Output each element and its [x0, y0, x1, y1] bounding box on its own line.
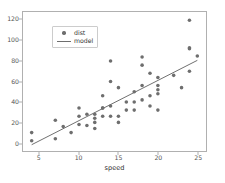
model-line: [32, 60, 198, 144]
scatter-point: [140, 63, 144, 67]
scatter-point: [30, 131, 34, 135]
scatter-point: [132, 108, 136, 112]
scatter-point: [77, 123, 81, 127]
scatter-point: [140, 98, 144, 102]
scatter-point: [140, 55, 144, 59]
scatter-point: [140, 84, 144, 88]
scatter-point: [30, 139, 34, 143]
scatter-point: [148, 72, 152, 76]
legend-label-dist: dist: [74, 30, 85, 36]
scatter-point: [109, 104, 113, 108]
scatter-point: [172, 74, 176, 78]
x-axis-tick-label: 15: [115, 155, 123, 161]
scatter-point: [109, 80, 113, 84]
scatter-point: [156, 76, 160, 80]
scatter-point: [180, 86, 184, 90]
y-axis-tick-label: 100: [7, 37, 19, 43]
scatter-point: [148, 104, 152, 108]
scatter-point: [61, 125, 65, 129]
scatter-point: [54, 137, 58, 141]
x-axis-tick-label: 5: [37, 155, 41, 161]
scatter-point: [85, 112, 89, 116]
x-axis-label: speed: [22, 165, 207, 172]
legend: dist model: [52, 26, 98, 48]
scatter-point: [85, 124, 89, 128]
scatter-point: [77, 114, 81, 118]
scatter-point: [101, 94, 105, 98]
scatter-point: [188, 70, 192, 74]
scatter-point: [101, 114, 105, 118]
scatter-point: [69, 131, 73, 135]
y-axis-tick-label: 80: [11, 58, 19, 64]
scatter-point: [156, 88, 160, 92]
scatter-point: [132, 90, 136, 94]
scatter-point: [93, 121, 97, 125]
legend-entry-model: model: [56, 37, 93, 45]
plot-canvas: [23, 12, 206, 151]
scatter-point: [125, 108, 129, 112]
y-axis-tick-labels: 020406080100120: [0, 11, 19, 152]
x-axis-tick-label: 25: [194, 155, 202, 161]
legend-label-model: model: [74, 38, 93, 44]
scatter-point: [93, 112, 97, 116]
x-axis-tick-label: 10: [75, 155, 83, 161]
y-axis-tick-label: 20: [11, 120, 19, 126]
scatter-point: [109, 114, 113, 118]
scatter-point: [188, 46, 192, 50]
plot-axes: dist model: [22, 11, 207, 152]
figure: 020406080100120 dist model 510152025: [0, 0, 225, 183]
scatter-point: [109, 59, 113, 63]
scatter-point: [101, 106, 105, 110]
scatter-point: [148, 94, 152, 98]
x-axis-tick-label: 20: [154, 155, 162, 161]
y-axis-tick-label: 60: [11, 78, 19, 84]
scatter-point: [93, 117, 97, 121]
scatter-point: [156, 84, 160, 88]
legend-line-segment-icon: [56, 37, 72, 45]
x-axis-tick-labels: 510152025: [22, 155, 207, 164]
legend-entry-dist: dist: [56, 29, 93, 37]
scatter-point: [117, 114, 121, 118]
scatter-point: [125, 100, 129, 104]
y-axis-tick-label: 40: [11, 99, 19, 105]
scatter-point: [196, 54, 200, 58]
scatter-point: [117, 86, 121, 90]
scatter-point: [54, 119, 58, 123]
model-regression-line: [32, 60, 198, 144]
scatter-point: [77, 106, 81, 110]
scatter-point: [156, 92, 160, 96]
scatter-point: [156, 108, 160, 112]
scatter-point: [93, 127, 97, 131]
y-axis-tick-label: 120: [7, 16, 19, 22]
scatter-point: [188, 18, 192, 22]
scatter-point: [117, 121, 121, 125]
legend-marker-dot-icon: [56, 29, 72, 37]
scatter-point: [132, 100, 136, 104]
